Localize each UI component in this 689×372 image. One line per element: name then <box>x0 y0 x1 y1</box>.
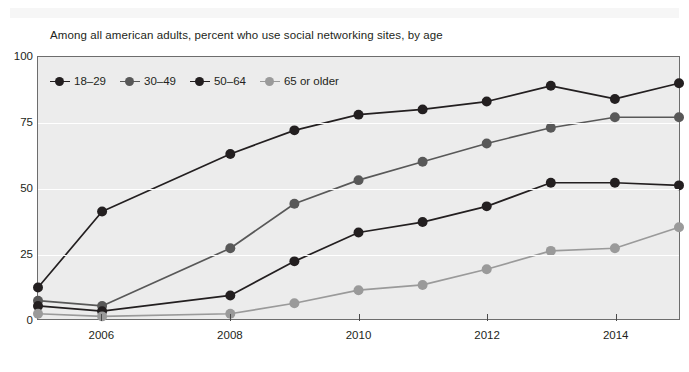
top-band <box>10 8 679 18</box>
legend-label: 18–29 <box>74 75 106 87</box>
data-point <box>225 149 235 159</box>
legend-item-4[interactable]: 65 or older <box>260 75 339 87</box>
x-tick-mark <box>487 314 488 321</box>
data-point <box>418 280 428 290</box>
data-point <box>546 81 556 91</box>
legend-marker-icon <box>190 76 210 87</box>
data-point <box>354 285 364 295</box>
chart-subtitle: Among all american adults, percent who u… <box>50 29 443 41</box>
legend: 18–2930–4950–6465 or older <box>50 75 339 87</box>
gridline <box>38 255 679 256</box>
gridline <box>38 189 679 190</box>
x-tick-label: 2010 <box>346 329 372 341</box>
data-point <box>546 178 556 188</box>
data-point <box>418 217 428 227</box>
y-tick-label: 25 <box>3 248 33 260</box>
data-point <box>610 112 620 122</box>
plot-area <box>37 56 680 320</box>
x-tick-label: 2006 <box>89 329 115 341</box>
y-axis: 0255075100 <box>0 56 33 320</box>
series-1 <box>33 78 684 292</box>
data-point <box>482 138 492 148</box>
data-point <box>33 309 43 319</box>
legend-item-3[interactable]: 50–64 <box>190 75 246 87</box>
data-point <box>289 125 299 135</box>
data-point <box>482 264 492 274</box>
x-tick-label: 2008 <box>217 329 243 341</box>
legend-marker-icon <box>260 76 280 87</box>
data-point <box>674 112 684 122</box>
legend-label: 65 or older <box>284 75 339 87</box>
data-point <box>33 283 43 293</box>
data-point <box>354 110 364 120</box>
data-point <box>225 290 235 300</box>
data-point <box>482 201 492 211</box>
y-tick-label: 100 <box>3 50 33 62</box>
x-tick-label: 2012 <box>474 329 500 341</box>
x-tick-mark <box>616 314 617 321</box>
series-line <box>38 227 679 316</box>
data-point <box>610 94 620 104</box>
legend-label: 30–49 <box>144 75 176 87</box>
data-point <box>354 175 364 185</box>
gridline <box>38 123 679 124</box>
legend-item-2[interactable]: 30–49 <box>120 75 176 87</box>
legend-marker-icon <box>120 76 140 87</box>
series-2 <box>33 112 684 311</box>
data-point <box>610 243 620 253</box>
x-tick-mark <box>359 314 360 321</box>
data-point <box>546 123 556 133</box>
data-point <box>354 228 364 238</box>
x-tick-label: 2014 <box>603 329 629 341</box>
data-point <box>97 207 107 217</box>
x-tick-mark <box>101 314 102 321</box>
data-point <box>674 78 684 88</box>
y-tick-label: 0 <box>3 314 33 326</box>
data-point <box>289 298 299 308</box>
legend-item-1[interactable]: 18–29 <box>50 75 106 87</box>
data-point <box>482 97 492 107</box>
x-axis: 20062008201020122014 <box>37 321 680 351</box>
data-point <box>674 222 684 232</box>
data-point <box>610 178 620 188</box>
series-layer <box>38 57 679 319</box>
data-point <box>418 104 428 114</box>
data-point <box>289 256 299 266</box>
y-tick-label: 75 <box>3 116 33 128</box>
x-tick-mark <box>230 314 231 321</box>
data-point <box>289 199 299 209</box>
data-point <box>225 243 235 253</box>
y-tick-label: 50 <box>3 182 33 194</box>
legend-marker-icon <box>50 76 70 87</box>
figure: Among all american adults, percent who u… <box>0 0 689 372</box>
legend-label: 50–64 <box>214 75 246 87</box>
series-line <box>38 117 679 306</box>
data-point <box>418 157 428 167</box>
